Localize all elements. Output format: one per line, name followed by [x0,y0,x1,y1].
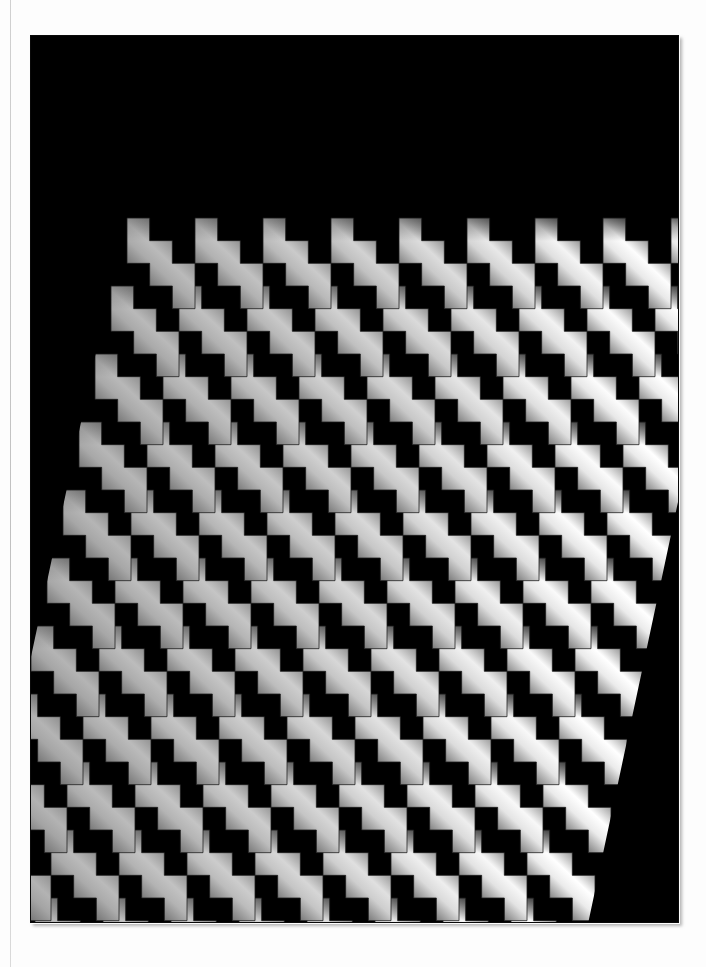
zigzag-relief-artwork [31,36,678,922]
page-fold-line [10,0,11,967]
scanned-page: Op Art Zigzag Relief [0,0,706,967]
artwork-title: Op Art Zigzag Relief [0,0,1,1]
artwork-plate [31,36,678,922]
